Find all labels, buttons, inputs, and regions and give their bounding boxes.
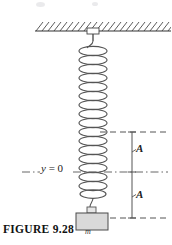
ceiling-anchor-icon (87, 28, 99, 34)
amplitude-upper-label: A (136, 143, 143, 154)
origin-value: = 0 (46, 162, 63, 174)
figure-caption: FIGURE 9.28 (3, 224, 74, 236)
amplitude-bracket-icon-lower (128, 172, 136, 218)
mass-block-icon (76, 207, 108, 230)
mass-symbol-label: m (85, 228, 91, 236)
amplitude-lower-label: A (136, 189, 143, 200)
coil-spring-icon (79, 46, 107, 207)
hatched-ceiling-icon (35, 22, 172, 31)
figure-9-28: y = 0 A A m FIGURE 9.28 (0, 0, 172, 245)
amplitude-bracket-icon-upper (128, 132, 136, 172)
equilibrium-position-label: y = 0 (41, 163, 63, 174)
figure-diagram-canvas (0, 0, 172, 245)
